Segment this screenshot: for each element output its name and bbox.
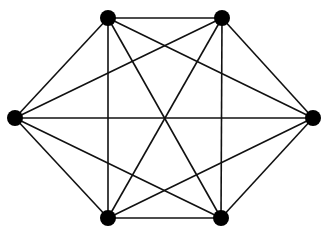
edge-bottom-right-left	[15, 118, 221, 218]
edge-top-right-right	[222, 18, 313, 118]
node-left	[7, 110, 23, 126]
edges-group	[15, 18, 313, 218]
node-right	[305, 110, 321, 126]
node-bottom-left	[100, 210, 116, 226]
edge-right-bottom-right	[221, 118, 313, 218]
edge-top-right-left	[15, 18, 222, 118]
node-top-right	[214, 10, 230, 26]
edge-top-left-right	[108, 18, 313, 118]
edge-right-bottom-left	[108, 118, 313, 218]
node-top-left	[100, 10, 116, 26]
complete-graph-diagram	[0, 0, 329, 239]
node-bottom-right	[213, 210, 229, 226]
edge-bottom-left-left	[15, 118, 108, 218]
edge-top-left-left	[15, 18, 108, 118]
